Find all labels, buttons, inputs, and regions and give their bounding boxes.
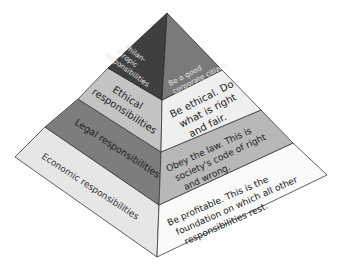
csr-pyramid: Philan- thropic responsibilities Be a go… bbox=[0, 0, 340, 271]
